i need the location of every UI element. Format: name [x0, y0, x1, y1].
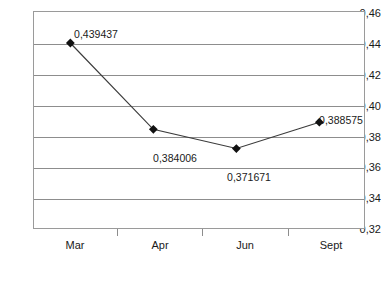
data-point-label: 0,439437 — [74, 28, 118, 40]
line-chart: 0,46 0,44 0,42 0,40 0,38 0,36 0,34 0,32 … — [0, 0, 381, 283]
data-point-label: 0,384006 — [153, 152, 197, 164]
data-point-label: 0,388575 — [319, 114, 363, 126]
data-point-label: 0,371671 — [227, 171, 271, 183]
data-point-marker — [232, 144, 241, 153]
series-markers — [66, 39, 324, 153]
data-series — [0, 0, 381, 283]
series-line — [70, 43, 319, 149]
